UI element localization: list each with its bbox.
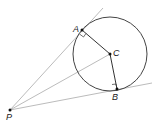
label-a: A bbox=[72, 24, 79, 34]
label-p: P bbox=[6, 112, 12, 120]
radius-ca bbox=[82, 30, 110, 54]
point-b bbox=[116, 88, 119, 91]
label-c: C bbox=[113, 48, 120, 58]
point-c bbox=[109, 53, 112, 56]
point-a bbox=[81, 29, 84, 32]
label-b: B bbox=[112, 92, 118, 102]
right-angle-marker-a bbox=[80, 34, 87, 38]
segment-pc bbox=[10, 54, 110, 110]
tangent-diagram: A C B P bbox=[0, 0, 160, 120]
